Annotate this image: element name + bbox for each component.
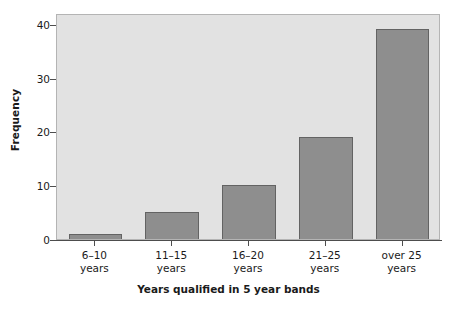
x-axis-tick-label-line: years (210, 262, 287, 275)
plot-area (56, 14, 440, 240)
y-axis-tick-labels: 010203040 (24, 0, 50, 310)
x-axis-tick-mark (171, 241, 172, 246)
y-axis-tick-label: 30 (24, 73, 50, 84)
x-axis-tick-label-line: over 25 (363, 249, 440, 262)
x-axis-tick-mark (94, 241, 95, 246)
x-axis-tick-label-line: years (133, 262, 210, 275)
x-axis-tick-label: 16–20years (210, 249, 287, 275)
x-axis-tick-mark (402, 241, 403, 246)
x-axis-tick-label-line: 6–10 (56, 249, 133, 262)
x-axis-tick-label: 11–15years (133, 249, 210, 275)
y-axis-tick-label: 40 (24, 20, 50, 31)
bar (145, 212, 199, 239)
y-axis-tick-label: 10 (24, 181, 50, 192)
x-axis-tick-label: over 25years (363, 249, 440, 275)
bar-chart: Frequency 010203040 6–10years11–15years1… (0, 0, 457, 310)
x-axis-tick-label-line: years (56, 262, 133, 275)
x-axis-tick-label-line: years (363, 262, 440, 275)
x-axis-title: Years qualified in 5 year bands (0, 283, 457, 295)
y-axis-title-text: Frequency (9, 89, 21, 151)
bar (376, 29, 430, 239)
x-axis-tick-label-line: 21–25 (286, 249, 363, 262)
x-axis-tick-label-line: years (286, 262, 363, 275)
bar (299, 137, 353, 239)
x-axis-tick-mark (248, 241, 249, 246)
x-axis-line (50, 240, 442, 241)
x-axis-tick-label-line: 16–20 (210, 249, 287, 262)
x-axis-tick-label-line: 11–15 (133, 249, 210, 262)
x-axis-tick-label: 6–10years (56, 249, 133, 275)
y-axis-tick-label: 20 (24, 127, 50, 138)
y-axis-tick-label: 0 (24, 235, 50, 246)
bar (69, 234, 123, 239)
x-axis-tick-label: 21–25years (286, 249, 363, 275)
bar (222, 185, 276, 239)
x-axis-tick-mark (325, 241, 326, 246)
